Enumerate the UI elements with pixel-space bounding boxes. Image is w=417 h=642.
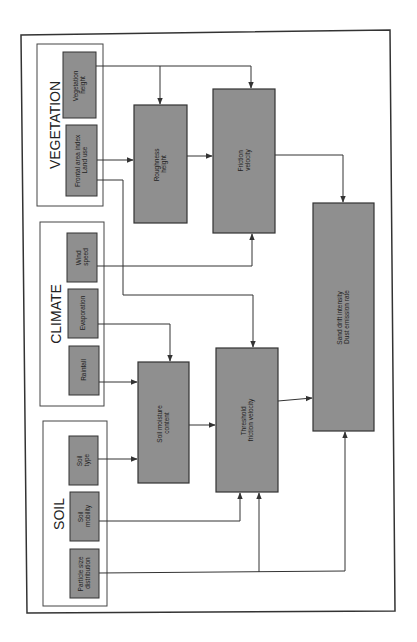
wind-speed-label: Wind speed bbox=[75, 248, 90, 266]
vegetation-title: VEGETATION bbox=[47, 81, 63, 169]
flow-diagram: VEGETATION CLIMATE SOIL bbox=[0, 0, 417, 642]
climate-title: CLIMATE bbox=[48, 284, 64, 344]
veg-height-connector bbox=[96, 66, 251, 88]
evaporation-label: Evaporation bbox=[79, 295, 87, 330]
friction-velocity-label: Friction velocity bbox=[237, 148, 252, 171]
particle-size-label: Particle size distribution bbox=[77, 555, 91, 592]
soil-title: SOIL bbox=[51, 498, 67, 530]
wind-to-friction bbox=[97, 234, 252, 266]
friction-to-sanddrift bbox=[275, 155, 343, 202]
threshold-to-sanddrift bbox=[278, 398, 312, 401]
soil-type-label: Soil type bbox=[76, 453, 91, 466]
rainfall-label: Rainfall bbox=[80, 359, 87, 381]
sand-drift-label: Sand drift intensity Dust emission rate bbox=[336, 289, 350, 344]
mobility-to-threshold bbox=[99, 493, 240, 521]
evap-to-moisture bbox=[98, 324, 170, 361]
